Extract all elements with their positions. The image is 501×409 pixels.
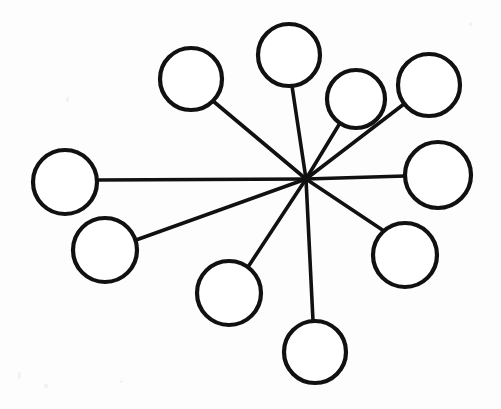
scan-speck xyxy=(18,372,21,379)
node-n4[interactable] xyxy=(398,54,460,116)
node-circle-n5[interactable] xyxy=(405,142,471,208)
node-circle-n8[interactable] xyxy=(197,261,261,325)
diagram-canvas xyxy=(0,0,501,409)
node-n2[interactable] xyxy=(258,24,320,86)
node-circle-n10[interactable] xyxy=(33,150,97,214)
star-network-diagram xyxy=(0,0,501,409)
node-circle-n6[interactable] xyxy=(373,223,437,287)
scan-speck xyxy=(44,384,48,388)
node-n8[interactable] xyxy=(197,261,261,325)
node-n9[interactable] xyxy=(73,218,137,282)
hub-center-node[interactable] xyxy=(303,176,309,182)
node-circle-n3[interactable] xyxy=(327,70,385,128)
node-n3[interactable] xyxy=(327,70,385,128)
node-circle-n1[interactable] xyxy=(160,48,222,110)
scan-speck xyxy=(469,22,472,26)
hub-layer xyxy=(303,176,309,182)
node-circle-n7[interactable] xyxy=(284,321,346,383)
node-circle-n2[interactable] xyxy=(258,24,320,86)
node-circle-n4[interactable] xyxy=(398,54,460,116)
scan-speck xyxy=(66,97,69,102)
node-n5[interactable] xyxy=(405,142,471,208)
node-n10[interactable] xyxy=(33,150,97,214)
scan-speck xyxy=(120,380,123,383)
node-n1[interactable] xyxy=(160,48,222,110)
node-n6[interactable] xyxy=(373,223,437,287)
edge-hub-to-n10 xyxy=(97,179,306,180)
node-n7[interactable] xyxy=(284,321,346,383)
node-circle-n9[interactable] xyxy=(73,218,137,282)
